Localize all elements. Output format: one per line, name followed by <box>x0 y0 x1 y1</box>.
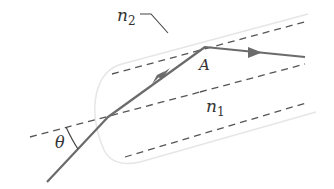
label-n2: n2 <box>117 5 136 28</box>
optical-fiber-diagram: n2 n1 A θ <box>0 0 334 189</box>
label-n1: n1 <box>206 96 225 119</box>
n2-leader-line <box>140 14 168 33</box>
ray-arrow-icon <box>248 47 262 58</box>
fiber-axis-line <box>30 92 200 137</box>
fiber-cladding-outline <box>95 14 316 164</box>
label-theta: θ <box>55 133 65 152</box>
label-point-a: A <box>197 56 210 74</box>
core-mid-boundary <box>200 64 305 92</box>
core-boundary-lines <box>30 21 308 157</box>
angle-arc <box>66 127 78 149</box>
